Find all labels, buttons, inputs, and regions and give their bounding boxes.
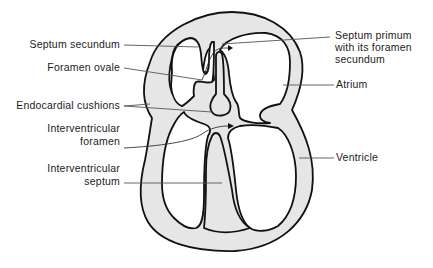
label-atrium: Atrium [336,78,368,90]
heart-septation-diagram: Septum secundum Foramen ovale Endocardia… [0,0,433,268]
label-interventricular-foramen-line1: Interventricular [47,122,120,134]
label-interventricular-septum-line2: septum [84,175,120,187]
label-foramen-ovale: Foramen ovale [47,61,120,73]
diagram-canvas: Septum secundum Foramen ovale Endocardia… [0,0,433,268]
label-septum-primum-line2: with its foramen [334,41,412,53]
label-ventricle: Ventricle [336,151,378,163]
label-endocardial-cushions: Endocardial cushions [16,99,120,111]
label-septum-secundum: Septum secundum [29,38,120,50]
label-septum-primum-line3: secundum [335,53,385,65]
label-interventricular-foramen-line2: foramen [80,135,120,147]
label-septum-primum-line1: Septum primum [335,29,412,41]
label-interventricular-septum-line1: Interventricular [47,162,120,174]
